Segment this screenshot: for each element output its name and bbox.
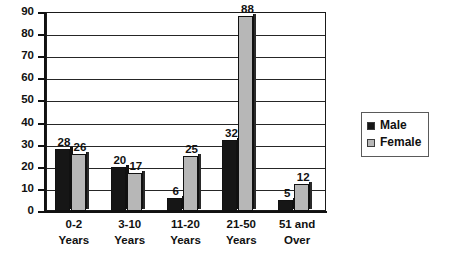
y-axis-tick [38,167,45,169]
bar-value-label: 25 [179,143,205,155]
bar-face [222,140,237,211]
y-axis-tick-label: 70 [0,50,34,61]
x-axis-label-line: Years [101,232,159,248]
bar-face [278,200,293,211]
bar-female-1: 17 [127,173,145,211]
x-axis-label-line: 3-10 [101,216,159,232]
bar-face [111,167,126,211]
y-axis-tick [38,34,45,36]
bar-face [238,16,253,211]
x-axis-label-line: Years [212,232,270,248]
legend-swatch-female [367,139,375,147]
bar-female-4: 12 [294,184,312,211]
bar-side-3d [309,182,312,209]
x-axis-label-line: 21-50 [212,216,270,232]
bar-face [167,198,182,211]
bar-value-label: 88 [234,3,260,15]
x-axis-category-labels: 0-2Years3-10Years11-20Years21-50Years51 … [46,216,325,264]
y-axis-tick [38,78,45,80]
x-axis-label-4: 51 andOver [268,216,326,248]
y-axis-tick-label: 0 [0,205,34,216]
bar-side-3d [142,171,145,209]
y-axis-tick [38,12,45,14]
bar-value-label: 12 [290,171,316,183]
legend-swatch-male [367,122,375,130]
y-axis-tick [38,145,45,147]
bar-female-3: 88 [238,16,256,211]
x-axis-label-0: 0-2Years [45,216,103,248]
bar-face [294,184,309,211]
bar-female-0: 26 [71,154,89,211]
y-axis-tick-label: 50 [0,94,34,105]
bar-value-label: 26 [67,141,93,153]
bar-face [127,173,142,211]
x-axis-label-line: 11-20 [157,216,215,232]
y-axis-tick [38,123,45,125]
bar-side-3d [198,154,201,209]
bar-chart: 0102030405060708090 282620176253288512 0… [0,0,450,270]
y-axis-tick [38,56,45,58]
y-axis-tick-label: 20 [0,161,34,172]
x-axis-label-line: Over [268,232,326,248]
y-axis-tick-label: 40 [0,117,34,128]
x-axis-label-2: 11-20Years [157,216,215,248]
bar-face [71,154,86,211]
y-axis-tick-label: 80 [0,28,34,39]
y-axis-tick-label: 90 [0,6,34,17]
chart-legend: Male Female [361,112,429,157]
x-axis-label-line: 51 and [268,216,326,232]
bar-face [55,149,70,211]
y-axis-tick [38,100,45,102]
legend-label-male: Male [380,119,407,132]
y-axis-tick-label: 30 [0,139,34,150]
bar-value-label: 17 [123,160,149,172]
bar-side-3d [86,152,89,209]
x-axis-label-line: 0-2 [45,216,103,232]
legend-item-male: Male [367,117,421,134]
y-axis-tick-label: 60 [0,72,34,83]
x-axis-label-1: 3-10Years [101,216,159,248]
y-axis-tick-label: 10 [0,183,34,194]
x-axis-label-line: Years [45,232,103,248]
legend-label-female: Female [380,136,421,149]
x-axis-label-3: 21-50Years [212,216,270,248]
bar-side-3d [253,14,256,209]
bar-face [183,156,198,211]
x-axis-line [44,211,327,213]
bars-layer: 282620176253288512 [46,12,325,211]
y-axis-tick [38,189,45,191]
x-axis-label-line: Years [157,232,215,248]
bar-female-2: 25 [183,156,201,211]
legend-item-female: Female [367,134,421,151]
